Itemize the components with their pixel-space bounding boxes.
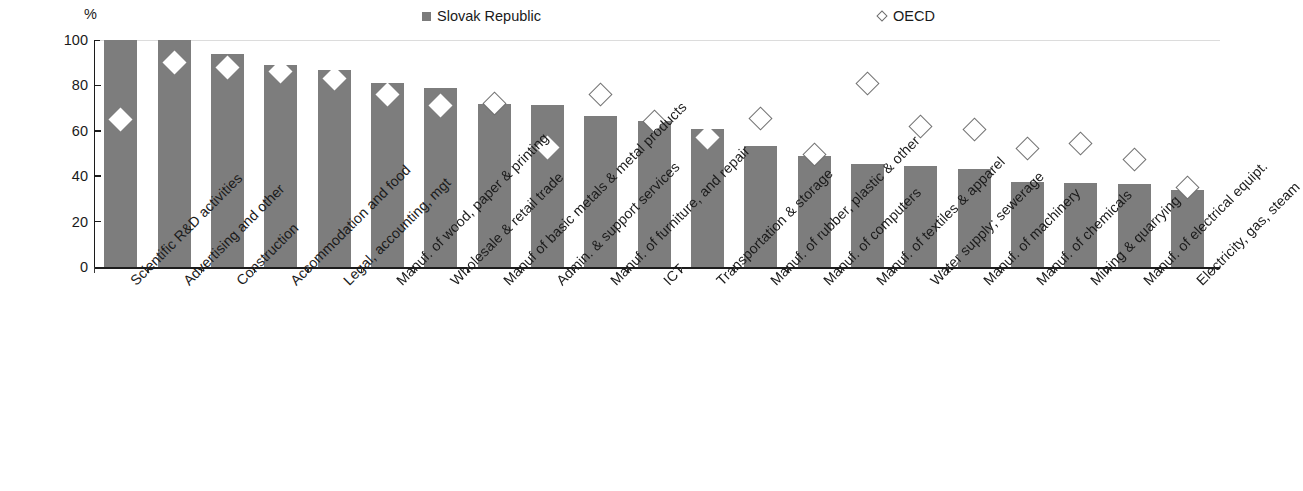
y-axis-tick-label: 60	[18, 123, 88, 139]
gridline	[100, 40, 1220, 41]
y-axis-tick-label: 80	[18, 77, 88, 93]
chart-legend: Slovak Republic OECD	[0, 8, 1236, 30]
legend-square-icon	[422, 12, 431, 21]
oecd-marker	[962, 118, 986, 142]
legend-item-oecd: OECD	[878, 8, 935, 24]
legend-diamond-icon	[878, 12, 887, 21]
legend-item-slovak-republic: Slovak Republic	[422, 8, 541, 24]
oecd-marker	[1069, 131, 1093, 155]
oecd-marker	[1015, 137, 1039, 161]
y-axis-tick-label: 20	[18, 214, 88, 230]
legend-label-oecd: OECD	[893, 8, 935, 24]
y-axis-tick-label: 40	[18, 168, 88, 184]
oecd-marker	[1122, 147, 1146, 171]
legend-label-slovak-republic: Slovak Republic	[437, 8, 541, 24]
oecd-marker	[855, 71, 879, 95]
oecd-marker	[589, 82, 613, 106]
bar	[104, 40, 137, 267]
oecd-marker	[749, 106, 773, 130]
x-axis-category-labels: Scientific R&D activitiesAdvertising and…	[0, 267, 1236, 491]
y-axis-tick-label: 100	[18, 32, 88, 48]
